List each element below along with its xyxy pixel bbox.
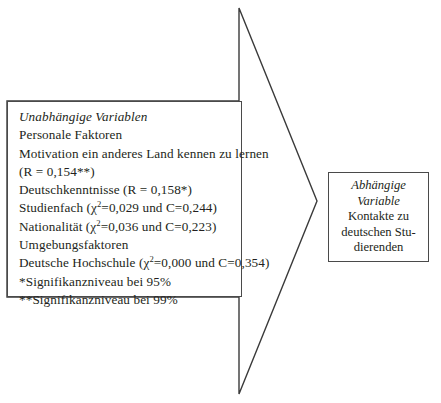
dependent-variable-box: Abhängige Variable Kontakte zu deutschen… (328, 172, 429, 262)
independent-heading: Unabhängige Variablen (19, 108, 239, 126)
dependent-line-deutschen: deutschen Stu- (341, 225, 416, 241)
nationalitaet-label: Nationalität ( (19, 219, 90, 234)
independent-line-motivation: Motivation ein anderes Land kennen zu le… (19, 145, 239, 163)
flow-diagram-canvas: Unabhängige Variablen Personale Faktoren… (0, 0, 441, 403)
independent-line-personale-faktoren: Personale Faktoren (19, 126, 239, 144)
independent-line-umgebungsfaktoren: Umgebungsfaktoren (19, 236, 239, 254)
independent-line-motivation-value: (R = 0,154**) (19, 163, 239, 181)
independent-variables-box: Unabhängige Variablen Personale Faktoren… (7, 101, 242, 297)
independent-line-nationalitaet: Nationalität (χ2=0,036 und C=0,223) (19, 218, 239, 236)
studienfach-label: Studienfach ( (19, 200, 91, 215)
dependent-line-dierenden: dierenden (354, 240, 404, 256)
hochschule-values: =0,000 und C=0,354) (154, 255, 270, 270)
dependent-heading-line-2: Variable (357, 194, 400, 210)
hochschule-label: Deutsche Hochschule ( (19, 255, 143, 270)
footnote-significance-95: *Signifikanzniveau bei 95% (19, 273, 239, 291)
footnote-significance-99: **Signifikanzniveau bei 99% (19, 291, 239, 309)
studienfach-values: =0,029 und C=0,244) (101, 200, 217, 215)
independent-variables-list: Unabhängige Variablen Personale Faktoren… (19, 108, 239, 309)
independent-line-studienfach: Studienfach (χ2=0,029 und C=0,244) (19, 199, 239, 217)
dependent-heading-line-1: Abhängige (351, 178, 406, 194)
nationalitaet-values: =0,036 und C=0,223) (101, 219, 217, 234)
independent-line-deutschkenntnisse: Deutschkenntnisse (R = 0,158*) (19, 181, 239, 199)
independent-line-deutsche-hochschule: Deutsche Hochschule (χ2=0,000 und C=0,35… (19, 254, 239, 272)
dependent-line-kontakte: Kontakte zu (348, 209, 409, 225)
